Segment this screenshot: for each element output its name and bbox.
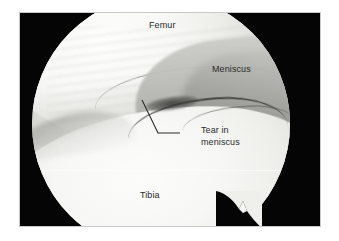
label-tear-in-meniscus: Tear in meniscus bbox=[201, 125, 263, 148]
label-tear-line-1: Tear in bbox=[201, 125, 229, 135]
arthroscope-field-of-view bbox=[32, 13, 290, 226]
photograph-frame bbox=[20, 13, 320, 226]
label-tibia: Tibia bbox=[140, 190, 160, 201]
figure-page: Femur Meniscus Tibia Tear in meniscus bbox=[0, 0, 339, 241]
label-meniscus: Meniscus bbox=[212, 64, 251, 75]
tibia-highlight-line bbox=[42, 170, 285, 171]
label-femur: Femur bbox=[149, 20, 176, 31]
label-tear-line-2: meniscus bbox=[201, 137, 240, 147]
